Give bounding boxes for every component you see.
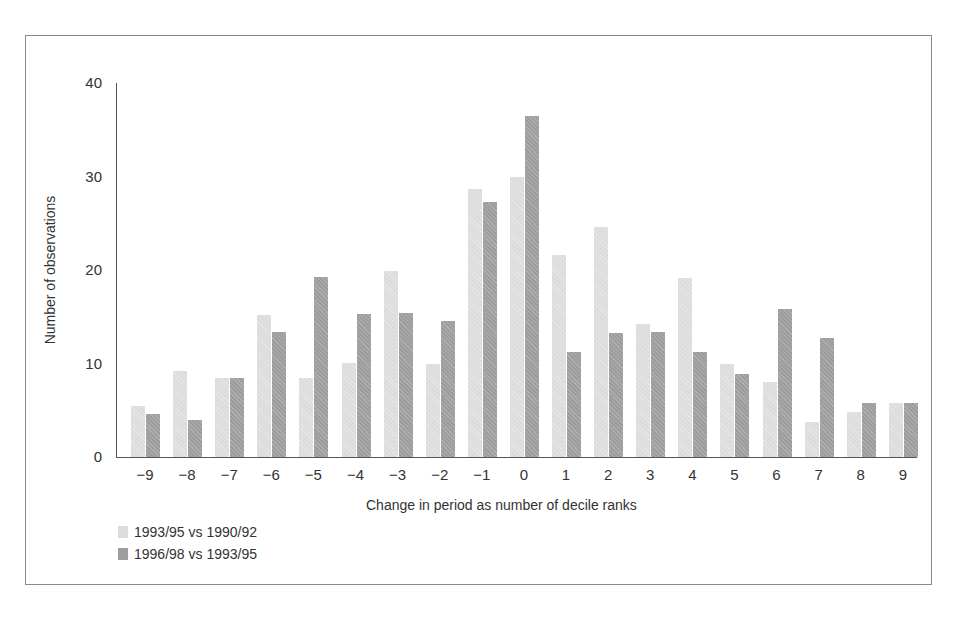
legend-label: 1993/95 vs 1990/92 <box>134 524 257 540</box>
bar-series-1 <box>131 406 145 457</box>
legend-item-series-1: 1993/95 vs 1990/92 <box>118 521 257 543</box>
x-tick-label: 0 <box>509 466 539 483</box>
bar-series-1 <box>720 364 734 457</box>
bar-series-1 <box>299 378 313 457</box>
x-tick-label: 2 <box>593 466 623 483</box>
x-tick-label: −9 <box>130 466 160 483</box>
bar-series-1 <box>889 403 903 457</box>
y-tick-label: 10 <box>72 355 102 372</box>
x-tick-label: −5 <box>298 466 328 483</box>
x-axis-line <box>116 457 917 458</box>
legend-swatch-dark <box>118 548 128 560</box>
y-tick-label: 30 <box>72 168 102 185</box>
bar-series-1 <box>594 227 608 457</box>
bar-series-2 <box>735 374 749 457</box>
y-tick-label: 40 <box>72 74 102 91</box>
bar-series-1 <box>426 364 440 458</box>
bar-series-2 <box>399 313 413 457</box>
x-tick-label: 6 <box>762 466 792 483</box>
x-tick-label: −6 <box>256 466 286 483</box>
x-tick-label: −7 <box>214 466 244 483</box>
x-axis-label: Change in period as number of decile ran… <box>366 497 637 513</box>
bar-series-2 <box>525 116 539 457</box>
bar-series-2 <box>314 277 328 457</box>
x-tick-label: 1 <box>551 466 581 483</box>
bar-series-1 <box>173 371 187 457</box>
bar-series-1 <box>763 382 777 457</box>
bar-series-1 <box>342 363 356 457</box>
bar-series-2 <box>567 352 581 457</box>
x-tick-label: −8 <box>172 466 202 483</box>
x-tick-label: 4 <box>677 466 707 483</box>
x-tick-label: −4 <box>341 466 371 483</box>
bar-series-2 <box>357 314 371 457</box>
bar-series-2 <box>651 332 665 457</box>
legend-swatch-light <box>118 526 128 538</box>
bar-series-1 <box>678 278 692 457</box>
bar-series-1 <box>510 177 524 457</box>
x-tick-label: 8 <box>846 466 876 483</box>
legend-label: 1996/98 vs 1993/95 <box>134 546 257 562</box>
y-axis-line <box>116 83 117 457</box>
bar-series-1 <box>805 422 819 457</box>
bar-series-2 <box>230 378 244 457</box>
bar-series-2 <box>272 332 286 457</box>
legend: 1993/95 vs 1990/92 1996/98 vs 1993/95 <box>118 521 257 565</box>
bar-series-2 <box>441 321 455 458</box>
x-tick-label: 5 <box>719 466 749 483</box>
bar-series-2 <box>693 352 707 457</box>
x-tick-label: 9 <box>888 466 918 483</box>
bar-series-2 <box>862 403 876 457</box>
bar-series-2 <box>820 338 834 457</box>
y-tick-label: 20 <box>72 261 102 278</box>
y-tick-label: 0 <box>72 448 102 465</box>
bar-series-2 <box>188 420 202 457</box>
x-tick-label: 3 <box>635 466 665 483</box>
x-tick-label: −2 <box>425 466 455 483</box>
bar-series-2 <box>146 414 160 457</box>
bar-series-2 <box>904 403 918 457</box>
bar-series-1 <box>215 378 229 457</box>
bar-series-1 <box>384 271 398 457</box>
x-tick-label: −1 <box>467 466 497 483</box>
bar-series-2 <box>609 333 623 457</box>
bar-series-1 <box>847 412 861 457</box>
y-axis-label: Number of observations <box>42 196 58 345</box>
bar-series-1 <box>257 315 271 457</box>
bar-series-1 <box>468 189 482 457</box>
plot-area: 010203040−9−8−7−6−5−4−3−2−10123456789 <box>116 83 917 457</box>
x-tick-label: −3 <box>383 466 413 483</box>
bar-series-1 <box>552 255 566 457</box>
x-tick-label: 7 <box>804 466 834 483</box>
bar-series-2 <box>483 202 497 457</box>
bar-series-1 <box>636 324 650 457</box>
legend-item-series-2: 1996/98 vs 1993/95 <box>118 543 257 565</box>
bar-series-2 <box>778 309 792 457</box>
